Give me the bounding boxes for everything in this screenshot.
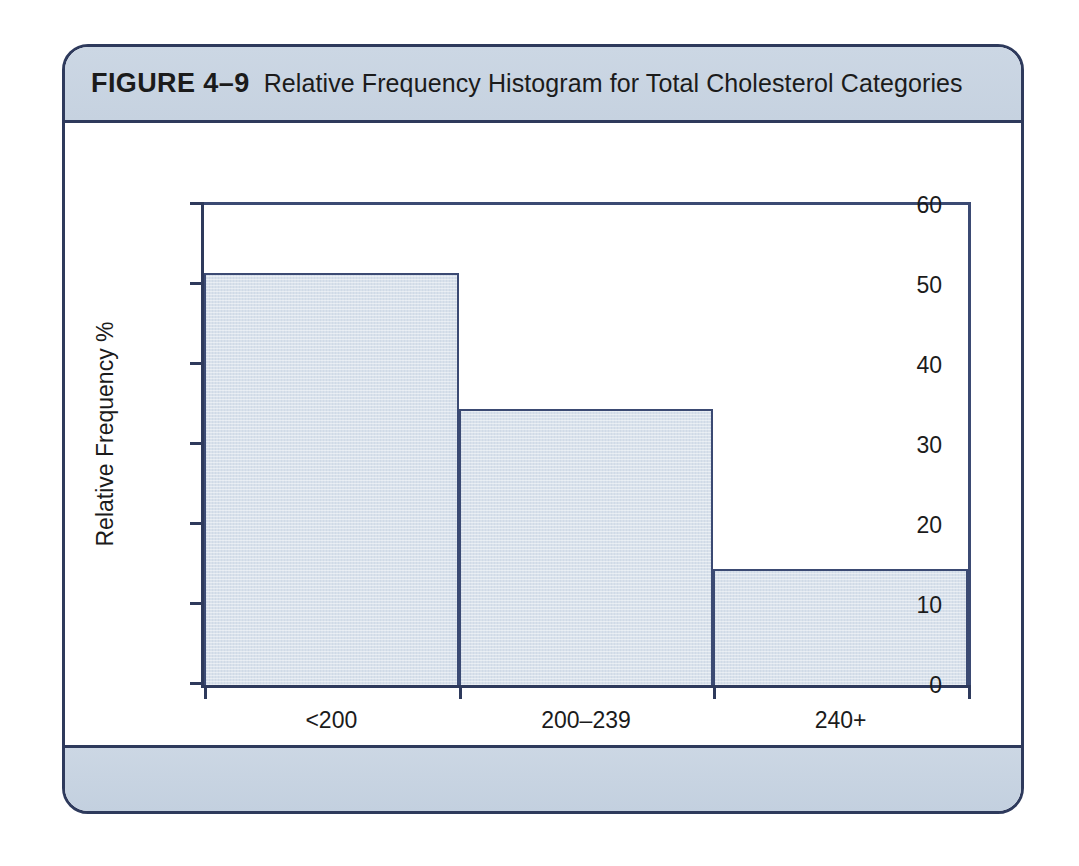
histogram-bar [204, 273, 459, 685]
histogram-bar [713, 569, 968, 685]
histogram-chart: Relative Frequency % 0102030405060 <2002… [65, 123, 1021, 745]
y-axis-tick-label: 10 [916, 592, 942, 619]
y-axis-title: Relative Frequency % [92, 322, 119, 547]
y-axis-tick-label: 60 [916, 192, 942, 219]
figure-number-label: FIGURE 4–9 [91, 68, 250, 98]
x-axis-tick [968, 685, 971, 699]
y-axis-tick [190, 442, 204, 445]
figure-footer-band [65, 745, 1021, 811]
y-axis-tick-label: 30 [916, 432, 942, 459]
figure-header-band: FIGURE 4–9 Relative Frequency Histogram … [65, 47, 1021, 123]
figure-card: FIGURE 4–9 Relative Frequency Histogram … [62, 44, 1024, 814]
y-axis-tick [190, 202, 204, 205]
y-axis-tick [190, 282, 204, 285]
y-axis-tick [190, 362, 204, 365]
figure-caption-label [250, 69, 264, 97]
bars-container [204, 205, 968, 685]
x-axis-tick-label: <200 [305, 707, 357, 734]
x-axis-tick-label: 200–239 [541, 707, 631, 734]
y-axis-tick-label: 0 [929, 672, 942, 699]
x-axis-tick [713, 685, 716, 699]
x-axis-tick [204, 685, 207, 699]
page-root: FIGURE 4–9 Relative Frequency Histogram … [0, 0, 1079, 866]
y-axis-tick-label: 20 [916, 512, 942, 539]
y-axis-tick [190, 682, 204, 685]
plot-area: 0102030405060 <200200–239240+ Total Chol… [201, 202, 971, 688]
y-axis-tick [190, 602, 204, 605]
x-axis-tick-label: 240+ [815, 707, 867, 734]
x-axis-tick [459, 685, 462, 699]
y-axis-tick [190, 522, 204, 525]
histogram-bar [459, 409, 714, 685]
y-axis-tick-label: 40 [916, 352, 942, 379]
figure-title: FIGURE 4–9 Relative Frequency Histogram … [65, 68, 963, 99]
figure-caption-text: Relative Frequency Histogram for Total C… [264, 69, 963, 97]
figure-body: Relative Frequency % 0102030405060 <2002… [65, 123, 1021, 745]
y-axis-tick-label: 50 [916, 272, 942, 299]
